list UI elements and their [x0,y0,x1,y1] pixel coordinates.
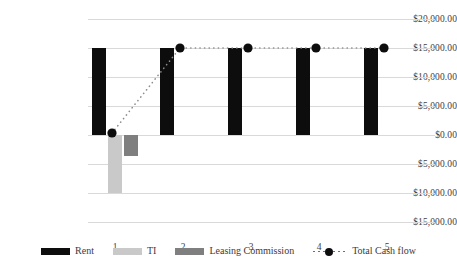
gridline [88,48,435,49]
legend-label: Rent [75,246,94,256]
bar-rent [364,48,378,135]
bar-rent [228,48,242,135]
legend-label: Leasing Commission [209,246,294,256]
ti-swatch-icon [113,248,142,255]
gridline [88,19,435,20]
legend-item-leasing-commission[interactable]: Leasing Commission [175,246,294,256]
legend-item-rent[interactable]: Rent [41,246,94,256]
gridline [88,77,435,78]
legend-item-total-cash-flow[interactable]: Total Cash flow [313,246,416,256]
plot-area: 1 2 3 4 5 [88,19,435,222]
total-cash-flow-line-swatch-icon [313,247,347,256]
bar-rent [92,48,106,135]
chart-legend: Rent TI Leasing Commission Total Cash fl… [0,243,457,259]
rent-swatch-icon [41,248,70,255]
gridline [88,222,435,223]
zero-baseline [88,135,435,136]
circle-marker-icon [325,248,333,256]
gridline [88,106,435,107]
bar-rent [160,48,174,135]
gridline [88,193,435,194]
bar-ti [108,135,122,193]
cash-flow-chart: $20,000.00 $15,000.00 $10,000.00 $5,000.… [0,0,457,273]
bar-leasing-commission [124,135,138,156]
legend-label: Total Cash flow [352,246,416,256]
leasing-commission-swatch-icon [175,248,204,255]
bar-rent [296,48,310,135]
legend-label: TI [147,246,156,256]
gridline [88,164,435,165]
legend-item-ti[interactable]: TI [113,246,156,256]
